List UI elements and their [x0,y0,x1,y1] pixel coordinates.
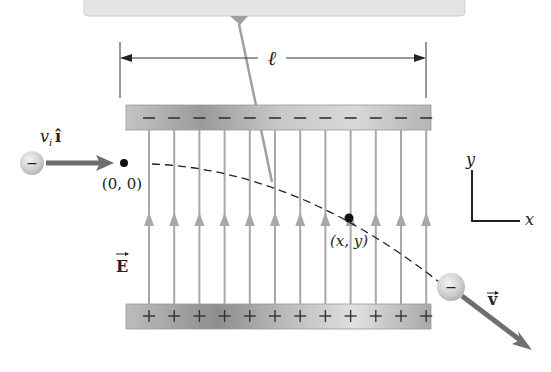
bottom-plate [126,304,432,329]
field-arrow-up-icon [396,212,406,226]
svg-text:i: i [49,137,52,148]
origin-label: (0, 0) [102,175,142,193]
arrow-right-icon [414,54,426,62]
field-arrow-up-icon [270,212,280,226]
field-arrow-up-icon [295,212,305,226]
field-arrow-up-icon [194,212,204,226]
field-arrow-up-icon [220,212,230,226]
final-velocity-label: v [487,290,499,309]
length-label: ℓ [268,46,277,70]
origin-point [120,159,128,167]
position-label: (x, y) [330,232,368,250]
initial-velocity-label: v i î [40,127,61,148]
field-arrow-up-icon [421,212,431,226]
length-dimension: ℓ [120,42,426,98]
incoming-electron: − [20,151,114,175]
arrow-left-icon [120,54,132,62]
callout-pointer-icon [230,16,248,25]
svg-text:v: v [40,127,49,146]
svg-text:E: E [116,257,128,276]
position-point [345,214,354,223]
x-axis-label: x [525,210,534,229]
field-arrow-up-icon [169,212,179,226]
diagram-canvas: ℓ (0, 0) (x, y) − v i î E − [0,0,551,372]
electric-field-lines [144,130,431,304]
field-arrow-up-icon [245,212,255,226]
field-arrow-up-icon [371,212,381,226]
field-label: E [116,252,129,276]
svg-text:−: − [445,279,457,295]
svg-text:−: − [26,155,38,171]
top-plate [126,105,432,130]
coordinate-axes: y x [465,150,534,229]
outgoing-electron: − [437,273,532,350]
y-axis-label: y [465,150,476,169]
field-arrow-up-icon [144,212,154,226]
field-arrow-up-icon [320,212,330,226]
svg-text:î: î [55,127,61,146]
